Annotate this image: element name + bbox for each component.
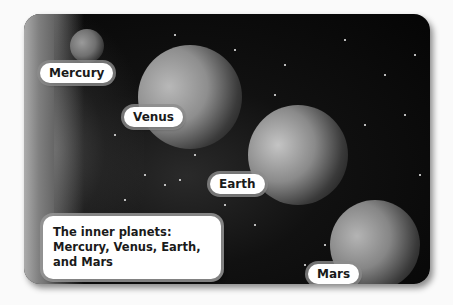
label-venus: Venus [124, 107, 183, 127]
label-earth: Earth [210, 174, 265, 194]
label-mars: Mars [308, 264, 359, 284]
venus-planet [138, 45, 242, 149]
figure-caption: The inner planets: Mercury, Venus, Earth… [43, 216, 221, 279]
label-mercury: Mercury [40, 63, 113, 83]
space-illustration: Mercury Venus Earth Mars The inner plane… [24, 14, 430, 284]
mercury-planet [70, 29, 104, 63]
